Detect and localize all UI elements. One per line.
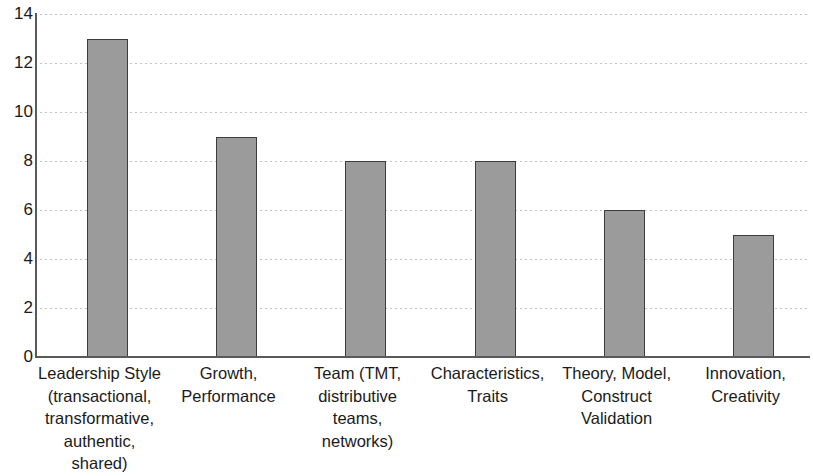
y-axis-tick-label: 0 bbox=[5, 348, 33, 365]
gridline bbox=[35, 112, 810, 113]
y-axis-tick-label: 12 bbox=[5, 54, 33, 71]
x-axis-line bbox=[35, 356, 810, 358]
x-axis-category-labels: Leadership Style (transactional, transfo… bbox=[35, 362, 810, 476]
y-axis-tick-label: 10 bbox=[5, 103, 33, 120]
y-axis-tick-label: 2 bbox=[5, 299, 33, 316]
x-axis-category-label: Leadership Style (transactional, transfo… bbox=[38, 362, 161, 475]
bar bbox=[475, 161, 516, 357]
bar bbox=[216, 137, 257, 358]
gridline bbox=[35, 210, 810, 211]
gridline bbox=[35, 161, 810, 162]
bar-chart: 14121086420 Leadership Style (transactio… bbox=[0, 0, 813, 476]
y-axis-tick-label: 4 bbox=[5, 250, 33, 267]
x-axis-category-label: Innovation, Creativity bbox=[684, 362, 807, 407]
x-axis-category-label: Growth, Performance bbox=[167, 362, 290, 407]
x-axis-category-label: Team (TMT, distributive teams, networks) bbox=[296, 362, 419, 452]
plot-area bbox=[35, 14, 810, 357]
x-axis-category-label: Characteristics, Traits bbox=[426, 362, 549, 407]
bar bbox=[345, 161, 386, 357]
y-axis-tick-label: 8 bbox=[5, 152, 33, 169]
y-axis-tick-label: 14 bbox=[5, 5, 33, 22]
y-axis-tick-labels: 14121086420 bbox=[0, 0, 33, 476]
bar bbox=[733, 235, 774, 358]
gridline bbox=[35, 308, 810, 309]
y-axis-line bbox=[35, 13, 37, 358]
bar bbox=[87, 39, 128, 358]
bar bbox=[604, 210, 645, 357]
x-axis-category-label: Theory, Model, Construct Validation bbox=[555, 362, 678, 430]
gridline bbox=[35, 14, 810, 15]
y-axis-tick-label: 6 bbox=[5, 201, 33, 218]
gridline bbox=[35, 259, 810, 260]
gridline bbox=[35, 63, 810, 64]
